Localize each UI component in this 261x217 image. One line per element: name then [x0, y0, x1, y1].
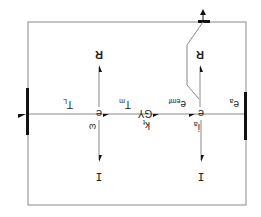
- emf-arrow-icon: [153, 114, 159, 117]
- right-junction-label: e: [96, 108, 102, 120]
- svg-text:ia: ia: [194, 121, 200, 133]
- left-r-label: R: [196, 49, 204, 61]
- left-i-label: I: [198, 170, 205, 183]
- output-arrow-icon: [200, 9, 206, 15]
- bond-graph-diagram: e ea ia R I eemf GY kt Tm e ω TL R I: [0, 0, 261, 217]
- right-r-arrow-icon: [99, 65, 102, 72]
- load-arrow-icon: [18, 114, 26, 118]
- svg-text:kt: kt: [143, 119, 150, 131]
- source-bar: [244, 92, 247, 140]
- output-bar: [198, 20, 210, 23]
- right-i-label: I: [96, 170, 103, 183]
- gyrator-label: GY: [137, 108, 152, 119]
- right-i-arrow-icon: [99, 155, 102, 162]
- tm-arrow-icon: [103, 114, 109, 117]
- left-i-arrow-icon: [201, 155, 204, 162]
- svg-text:ea: ea: [229, 98, 239, 110]
- svg-text:eemf: eemf: [169, 98, 186, 110]
- svg-text:Tm: Tm: [119, 98, 131, 110]
- right-r-label: R: [95, 49, 103, 61]
- ea-arrow-icon: [189, 114, 195, 117]
- omega-label: ω: [89, 122, 96, 132]
- left-junction-label: e: [198, 108, 204, 120]
- left-r-arrow-icon: [200, 65, 203, 72]
- svg-text:TL: TL: [63, 98, 73, 110]
- load-bar: [26, 88, 29, 135]
